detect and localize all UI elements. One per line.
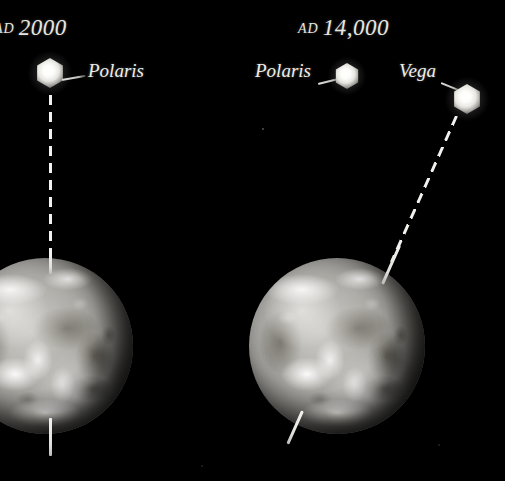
star-label-polaris-left: Polaris (88, 60, 144, 82)
background-speck (262, 128, 264, 130)
axis-south-stub-ad-2000 (49, 418, 52, 456)
epoch-year-left: 2000 (19, 15, 67, 40)
earth-terminator-shading (249, 258, 425, 434)
axis-dashed-ad-14000 (390, 115, 458, 262)
star-vega (452, 84, 482, 114)
star-label-polaris-right: Polaris (255, 60, 311, 82)
star-label-vega: Vega (399, 60, 436, 82)
epoch-label-ad-2000: AD2000 (0, 15, 67, 41)
epoch-prefix-right: AD (298, 21, 319, 36)
background-speck (438, 444, 440, 446)
axis-north-stub-ad-2000 (49, 252, 52, 274)
epoch-label-ad-14000: AD14,000 (298, 15, 389, 41)
earth-terminator-shading (0, 258, 133, 434)
earth-globe-ad-14000 (249, 258, 425, 434)
earth-globe-ad-2000 (0, 258, 133, 434)
background-speck (201, 465, 203, 467)
epoch-prefix-left: AD (0, 21, 15, 36)
star-polaris-left (35, 58, 65, 88)
axis-dashed-ad-2000 (49, 95, 52, 263)
star-polaris-right (332, 61, 362, 91)
precession-figure: AD2000 Polaris AD14,000 Polaris Vega (0, 0, 505, 481)
epoch-year-right: 14,000 (323, 15, 389, 40)
